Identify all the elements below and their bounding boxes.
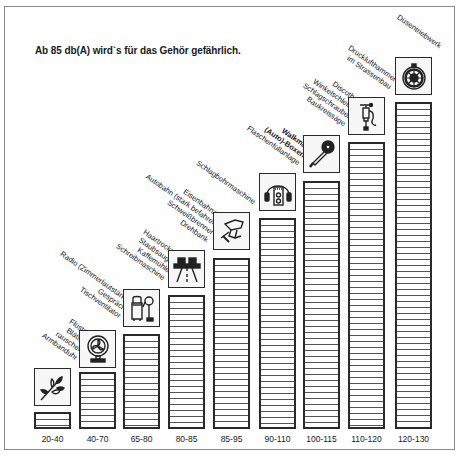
category-label: 40-70 xyxy=(73,434,123,444)
category-label: 120-130 xyxy=(389,434,439,444)
bar-100-115 xyxy=(303,181,340,429)
jackhammer-icon xyxy=(348,97,385,135)
walkman-headphones-icon xyxy=(259,173,296,211)
bar-110-120 xyxy=(348,142,385,429)
category-label: 20-40 xyxy=(28,434,78,444)
bar-40-70 xyxy=(79,372,116,429)
category-label: 110-120 xyxy=(342,434,392,444)
bar-20-40 xyxy=(34,412,71,429)
category-label: 100-115 xyxy=(297,434,347,444)
chart-title: Ab 85 db(A) wird`s für das Gehör gefährl… xyxy=(35,45,241,56)
category-label: 80-85 xyxy=(162,434,212,444)
angle-grinder-icon xyxy=(303,135,340,173)
bar-80-85 xyxy=(168,295,205,429)
category-label: 85-95 xyxy=(207,434,257,444)
bar-120-130 xyxy=(395,102,432,429)
category-label: 90-110 xyxy=(253,434,303,444)
jet-engine-icon xyxy=(395,57,432,95)
fan-icon xyxy=(79,330,116,368)
bar-90-110 xyxy=(259,218,296,429)
vacuum-cleaner-icon xyxy=(123,289,160,327)
highway-icon xyxy=(168,250,205,288)
bar-65-80 xyxy=(123,334,160,429)
hammer-drill-icon xyxy=(213,212,250,250)
leaves-icon xyxy=(34,368,71,406)
category-label: 65-80 xyxy=(117,434,167,444)
bar-85-95 xyxy=(213,258,250,429)
